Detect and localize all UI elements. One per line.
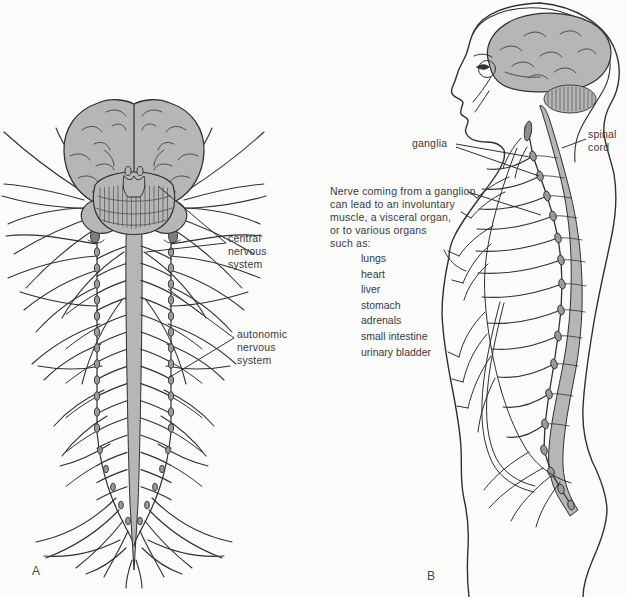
nervous-system-figure: central nervous system autonomic nervous… bbox=[0, 0, 626, 597]
ganglion-note: Nerve coming from a ganglion can lead to… bbox=[330, 185, 520, 250]
ganglia-label: ganglia bbox=[412, 137, 447, 150]
brain-front-illustration bbox=[64, 100, 204, 235]
organ-item: urinary bladder bbox=[361, 345, 431, 361]
organ-item: lungs bbox=[361, 251, 431, 267]
panel-b-letter: B bbox=[427, 569, 435, 583]
organ-item: stomach bbox=[361, 298, 431, 314]
central-nervous-system-label: central nervous system bbox=[228, 232, 267, 271]
organ-item: liver bbox=[361, 282, 431, 298]
organ-item: small intestine bbox=[361, 329, 431, 345]
organ-item: adrenals bbox=[361, 313, 431, 329]
organ-list: lungs heart liver stomach adrenals small… bbox=[361, 251, 431, 360]
panel-b-illustration bbox=[442, 3, 619, 597]
spinal-cord-label: spinal cord bbox=[588, 128, 617, 154]
panel-a-letter: A bbox=[32, 564, 40, 578]
autonomic-nervous-system-label: autonomic nervous system bbox=[237, 328, 287, 367]
figure-artwork bbox=[0, 0, 626, 597]
organ-item: heart bbox=[361, 267, 431, 283]
